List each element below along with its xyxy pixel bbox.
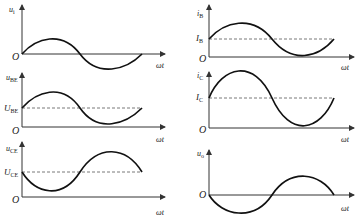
panel-uce: uCE UCE O ωt (4, 142, 165, 217)
origin-label: O (12, 194, 19, 205)
x-axis-label: ωt (341, 63, 350, 72)
origin-label: O (199, 124, 206, 135)
origin-label: O (199, 53, 206, 64)
x-axis-label: ωt (341, 204, 350, 213)
panel-ube: uBE UBE O ωt (4, 73, 165, 144)
amplifier-waveforms-diagram: ui O ωt uBE UBE O ωt uCE UCE O ωt iB IB … (0, 0, 355, 219)
origin-label: O (199, 189, 206, 200)
x-axis-label: ωt (156, 208, 165, 217)
y-axis-label: iB (197, 9, 203, 19)
x-axis-label: ωt (341, 135, 350, 144)
y-axis-label: ui (9, 5, 15, 15)
panel-uo: uo O ωt (197, 149, 354, 213)
panel-ic: iC IC O ωt (195, 71, 354, 144)
y-axis-label: uCE (6, 144, 18, 154)
y-axis-label: uBE (6, 73, 18, 83)
dc-level-label: IC (195, 92, 203, 103)
y-axis-label: iC (197, 71, 203, 81)
dc-level-label: IB (195, 33, 203, 44)
panel-ui: ui O ωt (9, 5, 165, 70)
y-axis-label: uo (197, 149, 204, 159)
origin-label: O (12, 125, 19, 136)
uce-waveform (22, 152, 142, 191)
x-axis-label: ωt (156, 135, 165, 144)
dc-level-label: UCE (4, 167, 19, 178)
panel-ib: iB IB O ωt (195, 5, 354, 72)
origin-label: O (12, 51, 19, 62)
x-axis-label: ωt (156, 61, 165, 70)
dc-level-label: UBE (4, 103, 19, 114)
